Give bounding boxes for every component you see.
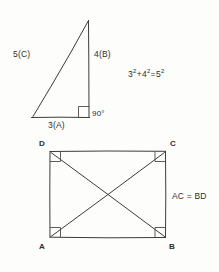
- equation-term-c-exponent: 2: [161, 68, 165, 74]
- square-vertex-label-a: A: [39, 243, 45, 251]
- figure-svg: [0, 0, 219, 272]
- square-group: [50, 151, 166, 238]
- geometry-figure-canvas: 5(C) 4(B) 3(A) 90° 32+42=52 D C A B AC =…: [0, 0, 219, 272]
- triangle-vertical-leg-line: [89, 21, 90, 118]
- square-vertex-label-b: B: [169, 243, 175, 251]
- triangle-vertical-leg-label: 4(B): [94, 50, 111, 59]
- triangle-right-angle-mark: [79, 107, 90, 118]
- square-vertex-label-c: C: [170, 140, 176, 148]
- triangle-right-angle-label: 90°: [92, 110, 105, 118]
- triangle-hypotenuse-label: 5(C): [13, 50, 30, 59]
- square-edge-top: [50, 151, 166, 152]
- pythagorean-equation: 32+42=52: [128, 68, 165, 78]
- triangle-base-label: 3(A): [48, 121, 65, 130]
- triangle-hypotenuse-line: [33, 21, 89, 117]
- square-vertex-label-d: D: [39, 140, 45, 148]
- square-edge-bottom: [50, 237, 166, 238]
- diagonal-relation-label: AC = BD: [172, 192, 207, 201]
- triangle-group: [32, 21, 90, 118]
